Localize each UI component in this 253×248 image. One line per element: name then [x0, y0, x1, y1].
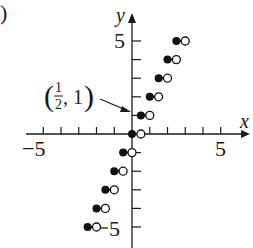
closed-dot [128, 130, 136, 138]
closed-dot [172, 37, 180, 45]
annot-paren-open: ( [44, 79, 54, 113]
open-dot [119, 167, 127, 175]
closed-dot [119, 149, 127, 157]
closed-dot [137, 111, 145, 119]
open-dot [110, 186, 118, 194]
open-dot [93, 223, 101, 231]
open-dot [146, 111, 154, 119]
step-function-chart: ) x y −5 5 5 5 ( 1 2 , 1 ) [0, 0, 253, 248]
open-dot [181, 37, 189, 45]
open-dot [128, 149, 136, 157]
open-dot [172, 56, 180, 64]
x-axis-label: x [239, 110, 249, 132]
annot-paren-close: ) [84, 79, 94, 113]
annot-denominator: 2 [55, 97, 62, 112]
closed-dot [164, 56, 172, 64]
annotation: ( 1 2 , 1 ) [44, 79, 131, 113]
x-tick-label-pos5: 5 [215, 136, 226, 161]
annotation-arrow-icon [120, 106, 131, 112]
y-tick-label-neg5: 5 [109, 216, 120, 241]
closed-dot [84, 223, 92, 231]
y-tick-label-pos5: 5 [114, 28, 125, 53]
annot-numerator: 1 [55, 80, 62, 95]
closed-dot [146, 93, 154, 101]
closed-dot [110, 167, 118, 175]
panel-label: ) [0, 0, 7, 25]
open-dot [101, 204, 109, 212]
open-dot [164, 74, 172, 82]
open-dot [137, 130, 145, 138]
x-tick-label-neg5: −5 [22, 136, 45, 161]
closed-dot [155, 74, 163, 82]
annot-rest: , 1 [63, 86, 83, 108]
y-axis-arrow-icon [128, 13, 136, 23]
open-dot [155, 93, 163, 101]
closed-dot [93, 204, 101, 212]
closed-dot [101, 186, 109, 194]
y-axis-label: y [114, 4, 125, 27]
